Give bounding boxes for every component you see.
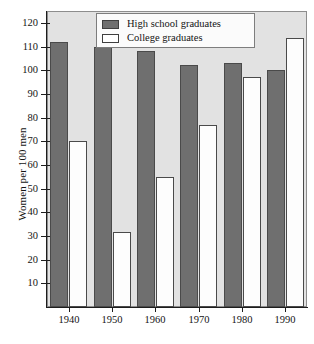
y-axis-tick-label: 10 (0, 278, 38, 289)
bar-high-school-1990 (267, 70, 285, 307)
y-axis-tick (41, 260, 50, 261)
y-axis-title: Women per 100 men (16, 94, 28, 254)
x-axis-tick (112, 308, 113, 312)
bar-high-school-1980 (224, 63, 242, 307)
bar-high-school-1940 (50, 42, 68, 307)
y-axis-tick-label: 20 (0, 255, 38, 266)
legend-label-college: College graduates (127, 33, 203, 44)
x-axis-tick-label: 1960 (134, 315, 176, 326)
y-axis-tick-label: 100 (0, 65, 38, 76)
bar-high-school-1950 (94, 47, 112, 307)
bar-chart: 102030405060708090100110120 194019501960… (0, 0, 314, 344)
y-axis-tick (41, 118, 50, 119)
legend-item-high-school: High school graduates (102, 17, 249, 31)
y-axis-tick (41, 189, 50, 190)
x-axis-tick (285, 308, 286, 312)
legend-swatch-icon-college (102, 34, 119, 43)
bar-high-school-1970 (180, 65, 198, 307)
y-axis-tick (41, 70, 50, 71)
bar-college-1980 (243, 77, 261, 307)
x-axis-tick-label: 1980 (221, 315, 263, 326)
y-axis-line (46, 11, 47, 308)
x-axis-tick-label: 1970 (178, 315, 220, 326)
x-axis-tick (242, 308, 243, 312)
y-axis-tick (41, 94, 50, 95)
legend-swatch-icon-high-school (102, 20, 119, 29)
legend-item-college: College graduates (102, 31, 249, 45)
bar-college-1950 (113, 232, 131, 307)
y-axis-tick (41, 165, 50, 166)
y-axis-tick (41, 141, 50, 142)
x-axis-tick-label: 1950 (91, 315, 133, 326)
bar-college-1940 (69, 141, 87, 307)
x-axis-tick (199, 308, 200, 312)
bar-college-1960 (156, 177, 174, 307)
x-axis-line (46, 307, 308, 308)
y-axis-tick (41, 47, 50, 48)
y-axis-tick (41, 212, 50, 213)
y-axis-tick (41, 283, 50, 284)
bar-college-1990 (286, 38, 304, 307)
x-axis-tick (155, 308, 156, 312)
chart-legend: High school graduates College graduates (96, 13, 255, 48)
y-axis-tick-label: 120 (0, 18, 38, 29)
x-axis-tick-label: 1940 (48, 315, 90, 326)
legend-label-high-school: High school graduates (127, 19, 221, 30)
bar-high-school-1960 (137, 51, 155, 307)
x-axis-tick-label: 1990 (264, 315, 306, 326)
bar-college-1970 (199, 125, 217, 307)
y-axis-tick (41, 236, 50, 237)
y-axis-tick-label: 110 (0, 42, 38, 53)
x-axis-tick (69, 308, 70, 312)
y-axis-tick (41, 23, 50, 24)
